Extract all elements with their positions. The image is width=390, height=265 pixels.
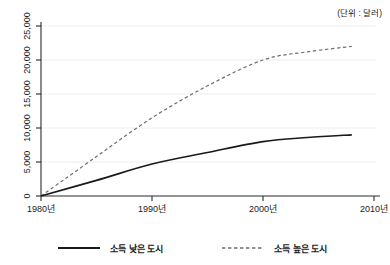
legend-label-low-income: 소득 낮은 도시 bbox=[110, 243, 163, 254]
x-tick-marks bbox=[41, 196, 374, 201]
y-tick-label-25000: 25,000 bbox=[22, 12, 32, 40]
x-tick-labels: 1980년 1990년 2000년 2010년 bbox=[27, 204, 388, 214]
line-chart: (단위 : 달러) 25,000 20,000 15,000 10,000 bbox=[0, 0, 390, 265]
y-tick-labels: 25,000 20,000 15,000 10,000 5,000 0 bbox=[22, 12, 32, 198]
series-line-high-income bbox=[41, 46, 352, 196]
gridlines bbox=[41, 26, 376, 162]
y-tick-label-5000: 5,000 bbox=[22, 151, 32, 174]
legend-label-high-income: 소득 높은 도시 bbox=[274, 244, 327, 254]
chart-container: (단위 : 달러) 25,000 20,000 15,000 10,000 bbox=[0, 0, 390, 265]
chart-legend: 소득 낮은 도시 소득 높은 도시 bbox=[58, 243, 327, 254]
y-tick-label-0: 0 bbox=[22, 193, 32, 198]
x-tick-label-1980: 1980년 bbox=[27, 204, 55, 214]
x-tick-label-2010: 2010년 bbox=[360, 204, 388, 214]
x-tick-label-2000: 2000년 bbox=[249, 204, 277, 214]
y-tick-label-10000: 10,000 bbox=[22, 114, 32, 142]
series-line-low-income bbox=[41, 135, 352, 196]
x-tick-label-1990: 1990년 bbox=[138, 204, 166, 214]
y-tick-label-20000: 20,000 bbox=[22, 46, 32, 74]
unit-note: (단위 : 달러) bbox=[337, 8, 382, 18]
y-tick-marks bbox=[36, 26, 41, 196]
y-tick-label-15000: 15,000 bbox=[22, 80, 32, 108]
